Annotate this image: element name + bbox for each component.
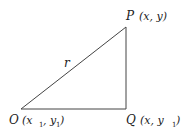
vertex-q-coords-open: (x, y — [140, 114, 164, 127]
vertex-o-coords-mid: , y — [43, 114, 57, 127]
vertex-q-name: Q — [126, 113, 136, 127]
vertex-o-name: O — [9, 113, 19, 127]
side-op-hypotenuse — [21, 27, 126, 109]
vertex-p-coords: (x, y) — [139, 10, 167, 23]
vertex-p-name: P — [125, 9, 135, 23]
hypotenuse-label: r — [64, 56, 71, 70]
triangle — [21, 27, 126, 109]
vertex-o-coords-open: (x — [22, 114, 33, 127]
vertex-p-label: P (x, y) — [125, 9, 167, 23]
triangle-diagram: r P (x, y) O (x 1 , y 1 ) Q (x, y 1 ) — [0, 0, 184, 133]
vertex-q-coords-close: ) — [175, 114, 180, 127]
vertex-o-label: O (x 1 , y 1 ) — [9, 113, 64, 129]
vertex-o-coords-close: ) — [59, 114, 64, 127]
vertex-q-label: Q (x, y 1 ) — [126, 113, 180, 129]
